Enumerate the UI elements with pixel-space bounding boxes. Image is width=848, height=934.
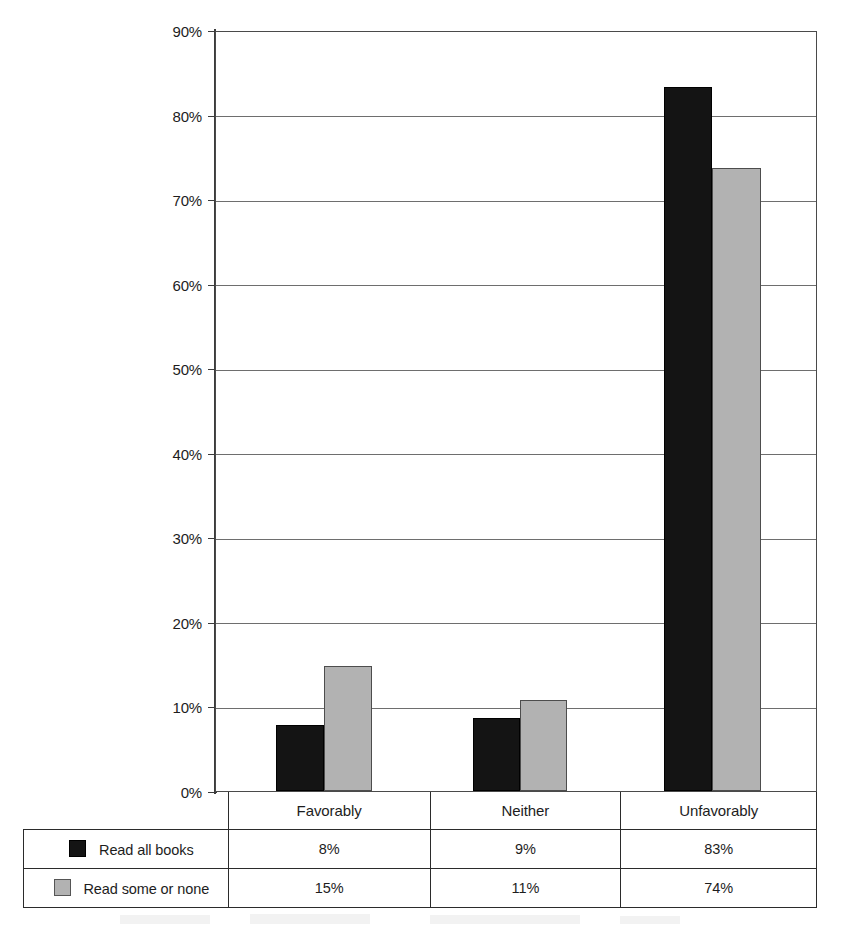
table-row: Read some or none 15% 11% 74% [24,869,817,908]
plot-area [215,31,817,792]
cell-read-all-books-neither: 9% [430,830,621,869]
cell-read-some-or-none-unfavorably: 74% [621,869,817,908]
bar-read-all-books-unfavorably [664,87,712,791]
bar-read-all-books-favorably [276,725,324,791]
bar-read-some-or-none-favorably [324,666,372,791]
column-header-neither: Neither [430,792,621,830]
cell-read-some-or-none-favorably: 15% [228,869,430,908]
column-header-favorably: Favorably [228,792,430,830]
gray-square-icon [54,879,71,896]
y-tick-label-90: 90% [144,24,202,39]
bar-read-all-books-neither [473,718,520,791]
legend-label: Read some or none [83,881,209,897]
bar-read-some-or-none-unfavorably [712,168,761,791]
legend-label: Read all books [99,842,194,858]
column-header-unfavorably: Unfavorably [621,792,817,830]
table-header-row: Favorably Neither Unfavorably [24,792,817,830]
y-tick-label-60: 60% [144,278,202,293]
y-tick-label-50: 50% [144,362,202,377]
legend-item-read-all-books: Read all books [24,830,229,869]
bar-chart-figure: 90% 80% 70% 60% 50% 40% 30% 20% 10% 0% [0,0,848,934]
black-square-icon [69,840,86,857]
scan-artifact [120,915,210,924]
cell-read-all-books-unfavorably: 83% [621,830,817,869]
y-tick-label-20: 20% [144,616,202,631]
bar-read-some-or-none-neither [520,700,567,791]
legend-item-read-some-or-none: Read some or none [24,869,229,908]
cell-read-some-or-none-neither: 11% [430,869,621,908]
y-tick-label-30: 30% [144,531,202,546]
y-tick-label-10: 10% [144,700,202,715]
cell-read-all-books-favorably: 8% [228,830,430,869]
table-row: Read all books 8% 9% 83% [24,830,817,869]
scan-artifact [250,914,370,924]
gridline-80 [216,116,816,117]
y-tick-label-80: 80% [144,109,202,124]
y-tick-label-70: 70% [144,193,202,208]
data-table: Favorably Neither Unfavorably Read all b… [23,792,817,908]
scan-artifact [430,915,580,924]
y-tick-label-40: 40% [144,447,202,462]
table-corner-cell [24,792,229,830]
scan-artifact [620,916,680,924]
